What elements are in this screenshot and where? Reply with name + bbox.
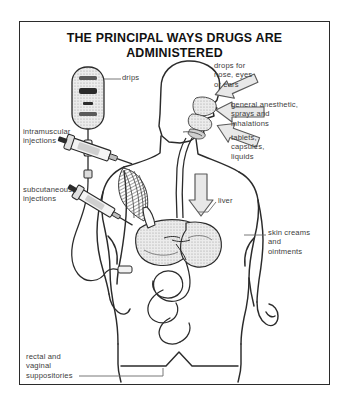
label-drips: drips xyxy=(122,73,139,82)
label-drops-nose-eyes-ears: drops for nose, eyes or ears xyxy=(214,61,252,89)
diagram-frame: THE PRINCIPAL WAYS DRUGS ARE ADMINISTERE… xyxy=(19,21,330,385)
esophagus-icon xyxy=(176,138,192,218)
label-tablets-capsules-liquids: tablets, capsules, liquids xyxy=(231,133,264,161)
leader-suppositories xyxy=(79,368,163,376)
anatomy-illustration xyxy=(20,22,331,386)
stomach-icon xyxy=(181,222,222,267)
label-liver: liver xyxy=(218,196,233,205)
nasal-cavity-icon xyxy=(183,97,216,139)
label-rectal-vaginal-suppositories: rectal and vaginal suppositories xyxy=(26,352,73,380)
label-subcutaneous-injections: subcutaneous injections xyxy=(23,185,72,204)
label-intramuscular-injections: intramuscular injections xyxy=(23,127,71,146)
label-general-anesthetic: general anesthetic, sprays and inhalatio… xyxy=(231,100,298,128)
label-skin-creams-ointments: skin creams and ointments xyxy=(268,228,310,256)
intestines-icon xyxy=(148,262,190,344)
